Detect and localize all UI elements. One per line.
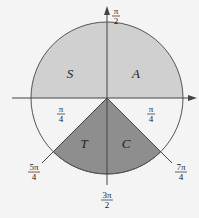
label-left-pi-over-4: π 4 (57, 104, 65, 124)
label-c: C (122, 136, 131, 151)
label-5pi-over-4: 5π 4 (28, 162, 40, 182)
label-3pi-over-2: 3π 2 (101, 190, 113, 210)
svg-text:3π: 3π (102, 190, 112, 200)
svg-text:4: 4 (179, 172, 184, 182)
svg-text:π: π (114, 6, 119, 16)
label-s: S (67, 66, 74, 81)
svg-text:π: π (59, 104, 64, 114)
svg-text:5π: 5π (29, 162, 39, 172)
label-a: A (131, 66, 140, 81)
svg-text:4: 4 (149, 114, 154, 124)
svg-text:4: 4 (59, 114, 64, 124)
x-axis-arrow-icon (188, 95, 197, 101)
unit-circle-diagram: S A T C π 2 π 4 π 4 5π 4 7π 4 3π 2 (0, 0, 199, 218)
label-7pi-over-4: 7π 4 (175, 162, 187, 182)
svg-text:4: 4 (32, 172, 37, 182)
label-t: T (80, 136, 88, 151)
svg-text:π: π (149, 104, 154, 114)
svg-text:2: 2 (105, 200, 110, 210)
svg-text:2: 2 (114, 16, 119, 26)
y-axis-arrow-icon (104, 6, 110, 15)
label-right-pi-over-4: π 4 (147, 104, 155, 124)
svg-text:7π: 7π (176, 162, 186, 172)
